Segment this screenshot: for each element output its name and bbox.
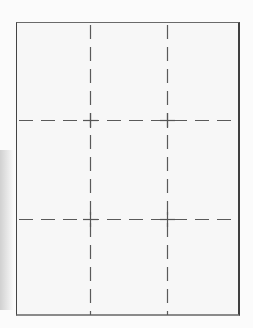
cut-grid [17, 23, 239, 315]
cut-intersections [83, 113, 175, 227]
template-sheet [16, 22, 240, 316]
scan-edge-shadow [0, 150, 14, 310]
